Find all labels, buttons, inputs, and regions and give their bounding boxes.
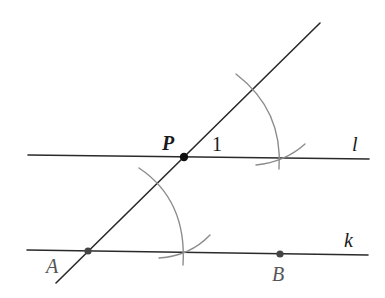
label-B: B xyxy=(272,263,284,285)
construction-diagram: P 1 l k A B xyxy=(0,0,385,298)
transversal-line xyxy=(56,23,320,283)
lower-construction-arc xyxy=(139,168,183,265)
point-A xyxy=(84,247,91,254)
upper-cross-arc xyxy=(256,144,305,165)
line-l xyxy=(28,155,369,159)
point-B xyxy=(276,250,283,257)
line-k xyxy=(27,250,368,255)
upper-construction-arc xyxy=(236,74,279,169)
label-line-k: k xyxy=(344,229,354,251)
label-P: P xyxy=(161,132,175,154)
label-angle-1: 1 xyxy=(212,133,222,155)
lower-cross-arc xyxy=(159,235,210,258)
label-A: A xyxy=(44,255,59,277)
point-P xyxy=(180,153,188,161)
label-line-l: l xyxy=(352,133,358,155)
